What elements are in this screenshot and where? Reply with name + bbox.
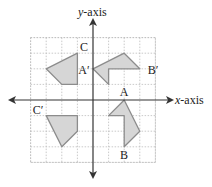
point-label: A′ (78, 63, 90, 77)
point-label: B′ (148, 63, 159, 77)
point-label: A (120, 85, 129, 99)
y-axis-label: y-axis (77, 5, 107, 19)
axes (10, 20, 172, 177)
point-label: C′ (33, 103, 44, 117)
shape-image-A-prime-B-prime (93, 53, 140, 84)
point-label: C (80, 40, 88, 54)
y-axis-label-rest: -axis (83, 5, 107, 19)
shape-image-C (46, 53, 77, 84)
shape-image-C-prime (46, 116, 77, 147)
x-axis-label-rest: -axis (180, 93, 204, 107)
coordinate-plane: x-axis y-axis ABCA′B′C′ (0, 0, 212, 187)
point-label: B (120, 148, 128, 162)
coordinate-plane-diagram: x-axis y-axis ABCA′B′C′ (0, 0, 212, 187)
x-axis-label: x-axis (174, 93, 204, 107)
shape-original-ABC (109, 100, 140, 147)
